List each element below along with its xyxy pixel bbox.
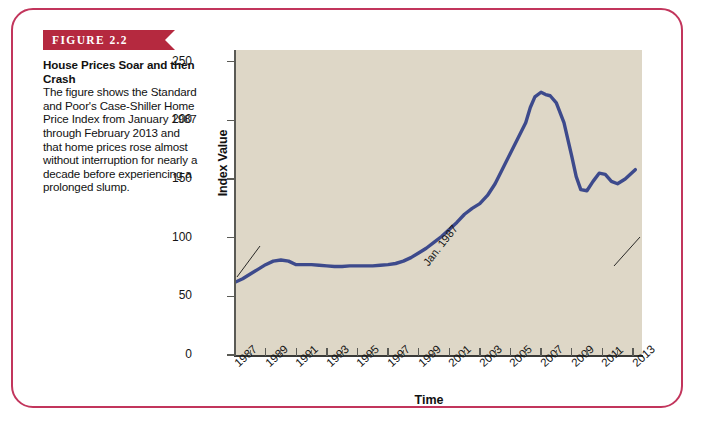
x-tick [479, 348, 480, 356]
x-tick [265, 348, 266, 356]
x-tick [326, 348, 327, 356]
y-tick [227, 61, 235, 62]
x-axis-title: Time [194, 393, 664, 407]
x-tick-minor [464, 350, 465, 356]
x-tick-minor [372, 350, 373, 356]
x-tick-minor [525, 350, 526, 356]
home-price-index-line [235, 50, 642, 355]
x-tick [632, 348, 633, 356]
x-tick-minor [311, 350, 312, 356]
y-tick [227, 296, 235, 297]
x-tick-minor [495, 350, 496, 356]
x-tick-minor [556, 350, 557, 356]
x-tick-minor [433, 350, 434, 356]
y-tick [227, 237, 235, 238]
figure-frame: FIGURE 2.2 House Prices Soar and then Cr… [11, 8, 683, 408]
x-tick [387, 348, 388, 356]
y-tick [227, 178, 235, 179]
x-tick-minor [250, 350, 251, 356]
figure-number-label: FIGURE 2.2 [52, 34, 128, 46]
y-tick-label: 100 [156, 230, 192, 244]
y-tick-label: 150 [156, 171, 192, 185]
x-tick-minor [586, 350, 587, 356]
x-tick-minor [403, 350, 404, 356]
x-tick [234, 348, 235, 356]
y-tick-label: 0 [156, 347, 192, 361]
x-tick [418, 348, 419, 356]
y-tick [227, 120, 235, 121]
x-tick [571, 348, 572, 356]
figure-number-banner: FIGURE 2.2 [43, 30, 165, 50]
x-tick-minor [617, 350, 618, 356]
plot-area [235, 50, 642, 355]
x-tick-minor [342, 350, 343, 356]
x-tick [540, 348, 541, 356]
y-tick-label: 200 [156, 112, 192, 126]
y-tick-label: 250 [156, 54, 192, 68]
chart-region: Index Value 050100150200250 198719891991… [194, 38, 664, 398]
y-axis-line [234, 50, 236, 356]
x-tick-minor [280, 350, 281, 356]
y-axis-title: Index Value [216, 130, 230, 197]
y-tick-label: 50 [156, 288, 192, 302]
